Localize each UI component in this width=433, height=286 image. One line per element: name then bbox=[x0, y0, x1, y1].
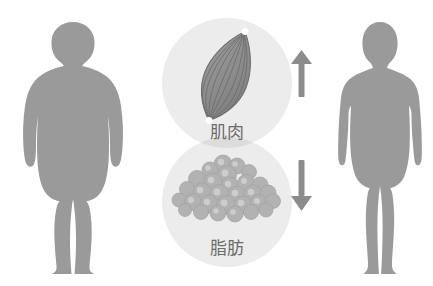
up-arrow-icon bbox=[291, 50, 312, 97]
comparison-circles-group: 肌肉 脂肪 bbox=[152, 14, 302, 272]
down-arrow-icon bbox=[291, 160, 312, 211]
trend-arrows-group bbox=[284, 44, 320, 226]
slim-body-silhouette bbox=[326, 16, 433, 274]
infographic-canvas: 肌肉 脂肪 bbox=[0, 0, 433, 286]
muscle-label: 肌肉 bbox=[210, 122, 244, 142]
fat-label: 脂肪 bbox=[210, 238, 244, 258]
overweight-body-silhouette bbox=[14, 16, 132, 274]
